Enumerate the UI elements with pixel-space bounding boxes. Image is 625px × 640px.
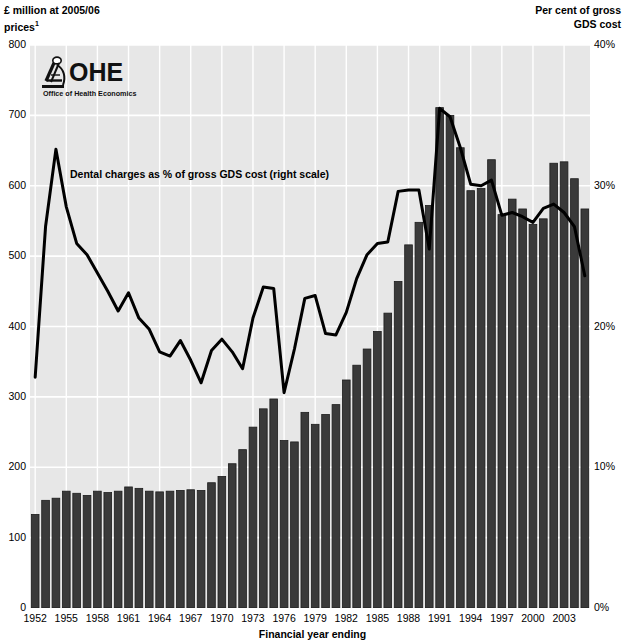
bar	[208, 483, 216, 608]
bar	[156, 492, 164, 608]
bar	[270, 399, 278, 608]
bar	[332, 405, 340, 608]
bar	[104, 493, 112, 608]
bar	[384, 313, 392, 608]
bar	[363, 349, 371, 608]
left-axis-tick: 100	[0, 531, 26, 543]
right-axis-tick: 20%	[594, 320, 615, 332]
bar	[425, 205, 433, 608]
ohe-logo-subtitle: Office of Health Economics	[43, 89, 136, 98]
bar	[73, 493, 81, 608]
bar	[519, 209, 527, 608]
chart-container: £ million at 2005/06 prices1 Per cent of…	[0, 0, 625, 640]
ohe-logo: OHE Office of Health Economics	[33, 55, 151, 101]
left-axis-tick: 400	[0, 320, 26, 332]
bar-series	[31, 108, 588, 608]
bar	[62, 491, 70, 608]
bar	[280, 441, 288, 608]
bar	[342, 380, 350, 608]
bar	[301, 412, 309, 608]
right-axis-tick: 10%	[594, 460, 615, 472]
bar	[228, 464, 236, 608]
bar	[135, 488, 143, 608]
bar	[353, 365, 361, 608]
bar	[322, 414, 330, 608]
bar	[446, 115, 454, 608]
bar	[239, 450, 247, 608]
bar	[498, 215, 506, 608]
bar	[218, 476, 226, 608]
right-axis-title: Per cent of gross GDS cost	[535, 3, 621, 31]
bar	[83, 495, 91, 608]
bar	[550, 163, 558, 608]
bar	[436, 108, 444, 608]
bar	[508, 199, 516, 608]
x-axis-tick: 2003	[544, 612, 584, 624]
bar	[249, 427, 257, 608]
bar	[52, 498, 60, 608]
bar	[394, 281, 402, 608]
bar	[291, 442, 299, 608]
bar	[125, 487, 133, 608]
left-axis-tick: 600	[0, 179, 26, 191]
plot-svg	[30, 45, 590, 608]
left-axis-tick: 300	[0, 390, 26, 402]
bar	[405, 245, 413, 608]
ohe-microscope-icon: OHE Office of Health Economics	[33, 55, 151, 101]
bar	[467, 191, 475, 608]
bar	[415, 222, 423, 608]
bar	[187, 490, 195, 608]
bar	[311, 424, 319, 608]
bar	[540, 219, 548, 608]
bar	[114, 491, 122, 608]
left-axis-tick: 500	[0, 249, 26, 261]
right-axis-tick: 0%	[594, 601, 609, 613]
bar	[457, 148, 465, 608]
bar	[94, 491, 102, 608]
plot-area	[30, 45, 590, 608]
bar	[145, 491, 153, 608]
bar	[42, 500, 50, 608]
left-axis-tick: 200	[0, 460, 26, 472]
bar	[166, 491, 174, 608]
bar	[31, 514, 39, 608]
x-axis-caption: Financial year ending	[0, 628, 625, 640]
bar	[177, 490, 185, 608]
left-axis-tick: 800	[0, 38, 26, 50]
right-axis-tick: 30%	[594, 179, 615, 191]
left-axis-title: £ million at 2005/06 prices1	[4, 3, 100, 34]
bar	[374, 331, 382, 608]
bar	[529, 224, 537, 608]
left-axis-title-superscript: 1	[35, 20, 39, 27]
bar	[477, 189, 485, 608]
bar	[197, 490, 205, 608]
left-axis-tick: 700	[0, 108, 26, 120]
bar	[560, 162, 568, 608]
left-axis-title-text: £ million at 2005/06 prices	[4, 4, 100, 33]
bar	[260, 409, 268, 608]
line-series-annotation: Dental charges as % of gross GDS cost (r…	[70, 168, 329, 180]
right-axis-tick: 40%	[594, 38, 615, 50]
bar	[488, 160, 496, 608]
ohe-logo-text: OHE	[69, 58, 123, 86]
